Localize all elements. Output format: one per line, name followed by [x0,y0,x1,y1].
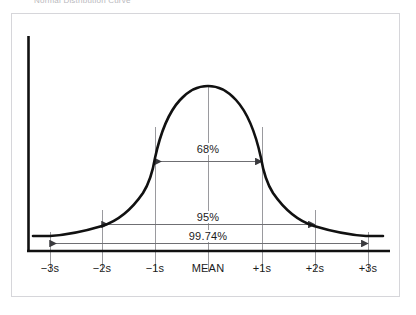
x-tick-label-minus-3s: −3s [41,262,60,274]
band-label-68-percent: 68% [194,143,223,155]
x-tick-label-mean: MEAN [192,262,225,274]
x-tick-label-minus-2s: −2s [93,262,112,274]
x-tick-label-plus-3s: +3s [359,262,378,274]
x-tick-label-plus-2s: +2s [306,262,325,274]
x-tick-label-minus-1s: −1s [146,262,165,274]
normal-distribution-figure: Normal Distribution Curve [0,0,416,315]
band-label-99-74-percent: 99.74% [186,230,231,242]
x-tick-label-plus-1s: +1s [253,262,272,274]
band-label-95-percent: 95% [194,211,223,223]
